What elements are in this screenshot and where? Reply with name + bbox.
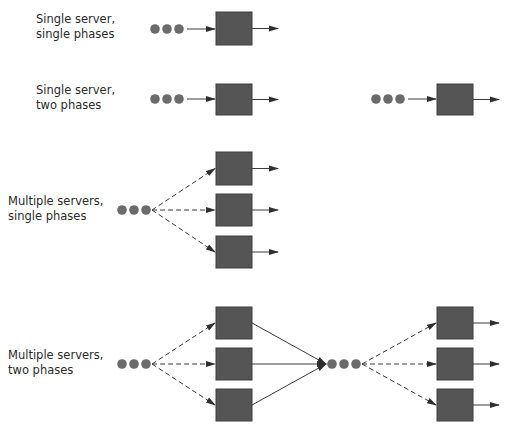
customer-dot-icon (141, 205, 151, 215)
dashed-arrow (152, 364, 215, 405)
label-single-server-two-phases: Single server, two phases (36, 83, 115, 113)
server-box (216, 307, 252, 339)
customer-dot-icon (150, 24, 160, 34)
customer-dot-icon (371, 94, 381, 104)
dashed-arrow (152, 210, 215, 252)
label-line-2: single phases (8, 209, 103, 224)
server-box (216, 236, 252, 268)
dashed-arrow (362, 364, 436, 405)
label-line-1: Multiple servers, (8, 348, 103, 363)
server-box (437, 348, 473, 380)
label-single-server-single-phase: Single server, single phases (36, 12, 115, 42)
dashed-arrow (152, 169, 215, 211)
server-box (216, 84, 252, 115)
server-box (216, 152, 252, 185)
dashed-arrow (362, 323, 436, 364)
label-line-2: single phases (36, 27, 115, 42)
label-multiple-servers-two-phases: Multiple servers, two phases (8, 348, 103, 378)
server-box (437, 84, 473, 115)
customer-dot-icon (383, 94, 393, 104)
label-line-2: two phases (36, 98, 115, 113)
server-box (216, 12, 252, 45)
server-box (216, 348, 252, 380)
customer-dot-icon (150, 94, 160, 104)
customer-dot-icon (339, 359, 349, 369)
customer-dot-icon (395, 94, 405, 104)
label-line-1: Single server, (36, 12, 115, 27)
customer-dot-icon (129, 205, 139, 215)
customer-dot-icon (327, 359, 337, 369)
label-line-1: Multiple servers, (8, 194, 103, 209)
merge-arrow (252, 364, 326, 405)
customer-dot-icon (141, 359, 151, 369)
customer-dot-icon (117, 205, 127, 215)
customer-dot-icon (129, 359, 139, 369)
dashed-arrow (152, 323, 215, 364)
customer-dot-icon (174, 94, 184, 104)
customer-dot-icon (162, 94, 172, 104)
customer-dot-icon (117, 359, 127, 369)
server-box (437, 307, 473, 339)
server-box (216, 389, 252, 421)
customer-dot-icon (162, 24, 172, 34)
customer-dot-icon (174, 24, 184, 34)
label-line-2: two phases (8, 363, 103, 378)
label-multiple-servers-single-phase: Multiple servers, single phases (8, 194, 103, 224)
merge-arrow (252, 323, 326, 364)
label-line-1: Single server, (36, 83, 115, 98)
server-box (216, 194, 252, 226)
customer-dot-icon (351, 359, 361, 369)
server-box (437, 389, 473, 421)
